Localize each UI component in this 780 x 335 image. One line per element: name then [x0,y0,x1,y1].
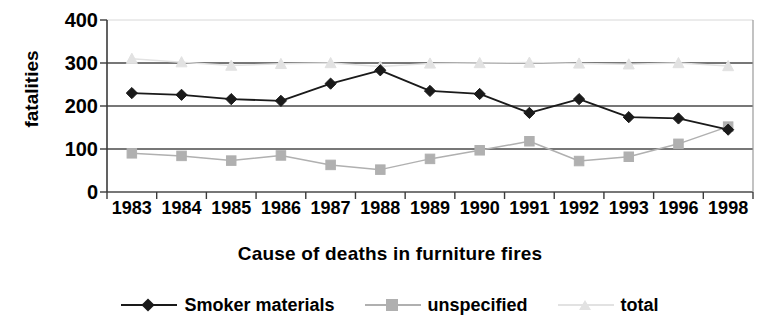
series-line [132,70,728,129]
data-point-marker [424,85,435,96]
data-point-marker [525,137,535,147]
data-point-marker [226,156,236,166]
data-point-marker [673,113,684,124]
x-tick-label-1998: 1998 [703,198,753,220]
y-tick-label-100: 100 [42,139,98,159]
series-total [126,53,733,71]
x-tick-label-1986: 1986 [256,198,306,220]
x-tick-label-1984: 1984 [157,198,207,220]
data-point-marker [524,107,535,118]
legend-entry-smoker-materials[interactable]: Smoker materials [121,295,334,316]
chart-legend: Smoker materialsunspecifiedtotal [0,288,780,322]
data-point-marker [573,94,584,105]
x-tick-label-1996: 1996 [654,198,704,220]
x-tick-label-1989: 1989 [405,198,455,220]
y-tick-label-200: 200 [42,96,98,116]
data-point-marker [326,160,336,170]
data-point-marker [624,152,634,162]
data-point-marker [674,139,684,149]
y-tick-label-300: 300 [42,53,98,73]
x-tick-label-1988: 1988 [355,198,405,220]
line-chart: fatalities 4003002001000 198319841985198… [0,0,780,335]
x-tick-label-1991: 1991 [505,198,555,220]
x-tick-label-1983: 1983 [107,198,157,220]
data-point-marker [475,146,485,156]
x-tick-label-1985: 1985 [206,198,256,220]
data-point-marker [275,95,286,106]
series-unspecified [127,122,733,175]
legend-marker [142,298,155,311]
data-point-marker [325,78,336,89]
data-point-marker [176,89,187,100]
data-point-marker [574,156,584,166]
data-point-marker [376,165,386,175]
legend-label: Smoker materials [184,295,334,316]
x-tick-label-1987: 1987 [306,198,356,220]
y-tick-label-400: 400 [42,10,98,30]
legend-marker [386,299,398,311]
x-tick-label-1992: 1992 [554,198,604,220]
data-point-marker [127,149,137,159]
legend-entry-total[interactable]: total [558,295,659,316]
legend-marker [579,300,591,310]
legend-entry-unspecified[interactable]: unspecified [365,295,528,316]
diamond-marker [121,296,177,314]
data-point-marker [226,94,237,105]
x-tick-label-1993: 1993 [604,198,654,220]
legend-label: unspecified [428,295,528,316]
data-point-marker [126,88,137,99]
square-marker [365,296,421,314]
x-axis-tick-labels: 1983198419851986198719881989199019911992… [107,198,753,224]
triangle-marker [558,296,614,314]
plot-svg [107,20,753,192]
data-point-marker [623,112,634,123]
legend-label: total [621,295,659,316]
data-point-marker [425,154,435,164]
y-axis-tick-labels: 4003002001000 [34,0,98,335]
series-smoker-materials [126,65,734,136]
x-tick-label-1990: 1990 [455,198,505,220]
x-axis-title: Cause of deaths in furniture fires [0,243,780,265]
data-point-marker [276,151,286,161]
y-tick-label-0: 0 [42,182,98,202]
data-point-marker [474,88,485,99]
data-point-marker [177,151,187,161]
plot-area [107,20,753,192]
